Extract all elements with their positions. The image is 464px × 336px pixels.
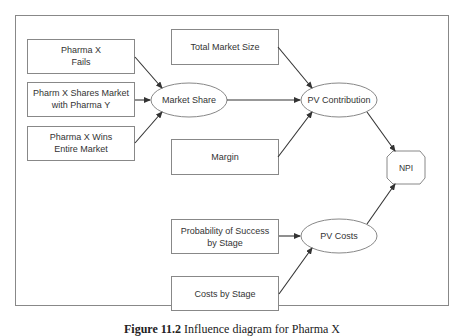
node-pharma-x-shares-market: Pharm X Shares Market with Pharma Y bbox=[28, 83, 135, 117]
node-label: Market Share bbox=[162, 95, 216, 105]
node-costs-by-stage: Costs by Stage bbox=[172, 277, 279, 311]
node-label: Pharma X Wins bbox=[50, 132, 113, 142]
node-label: with Pharma Y bbox=[51, 100, 110, 110]
node-label: Entire Market bbox=[54, 144, 108, 154]
node-label: NPI bbox=[399, 163, 413, 173]
node-pv-costs: PV Costs bbox=[301, 219, 377, 253]
node-margin: Margin bbox=[172, 140, 279, 175]
figure-caption: Figure 11.2 Influence diagram for Pharma… bbox=[0, 322, 464, 336]
edge-fails-to-market-share bbox=[135, 57, 162, 88]
node-label: Total Market Size bbox=[190, 42, 259, 52]
edge-pv-contribution-to-npi bbox=[367, 112, 395, 151]
node-npi: NPI bbox=[387, 151, 425, 184]
edge-costs-by-stage-to-pv-costs bbox=[279, 248, 312, 294]
node-label: Pharma X bbox=[61, 45, 101, 55]
edge-pv-costs-to-npi bbox=[367, 184, 395, 224]
node-pv-contribution: PV Contribution bbox=[301, 83, 377, 117]
node-label: Probability of Success bbox=[181, 226, 270, 236]
caption-figure-number: Figure 11.2 bbox=[124, 322, 181, 336]
node-label: Fails bbox=[71, 57, 91, 67]
edge-total-market-size-to-pv-contribution bbox=[278, 47, 312, 88]
edge-wins-to-market-share bbox=[135, 112, 162, 143]
node-market-share: Market Share bbox=[151, 83, 227, 117]
node-label: Pharm X Shares Market bbox=[33, 88, 130, 98]
influence-diagram: Pharma X Fails Pharm X Shares Market wit… bbox=[0, 0, 464, 336]
node-label: Margin bbox=[211, 152, 239, 162]
node-label: Costs by Stage bbox=[194, 289, 255, 299]
node-pharma-x-wins: Pharma X Wins Entire Market bbox=[28, 127, 135, 161]
edge-margin-to-pv-contribution bbox=[278, 112, 312, 157]
node-probability-of-success: Probability of Success by Stage bbox=[172, 220, 279, 254]
node-label: by Stage bbox=[207, 238, 243, 248]
node-label: PV Costs bbox=[320, 231, 358, 241]
node-label: PV Contribution bbox=[307, 95, 370, 105]
node-pharma-x-fails: Pharma X Fails bbox=[28, 40, 135, 74]
node-total-market-size: Total Market Size bbox=[172, 30, 279, 65]
caption-text: Influence diagram for Pharma X bbox=[184, 322, 340, 336]
